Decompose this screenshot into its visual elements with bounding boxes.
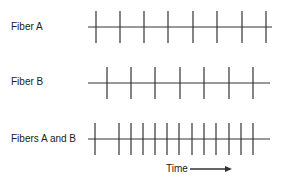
spike-train-diagram — [0, 0, 283, 181]
arrow-right-icon — [225, 166, 232, 172]
